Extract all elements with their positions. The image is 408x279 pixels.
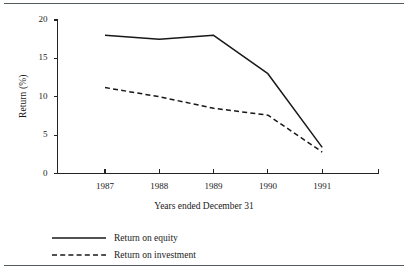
legend-label-return-on-investment: Return on investment [114,250,196,260]
legend-item-return-on-investment: Return on investment [52,246,302,263]
legend-swatch-dashed [52,250,106,260]
legend-item-return-on-equity: Return on equity [52,229,302,246]
series-group [105,35,322,152]
series-line-return-on-investment [105,88,322,152]
figure-container: Return (%) 05101520 19871988198919901991… [0,0,408,279]
chart-legend: Return on equity Return on investment [52,229,302,263]
legend-label-return-on-equity: Return on equity [114,233,178,243]
legend-swatch-solid [52,233,106,243]
axes-group [54,20,379,174]
axis-lines [58,20,379,174]
